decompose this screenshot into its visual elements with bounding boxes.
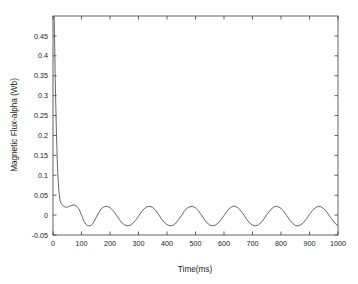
chart-svg: 01002003004005006007008009001000 -0.0500… — [0, 0, 358, 284]
x-tick-label: 800 — [275, 239, 287, 248]
figure-canvas: 01002003004005006007008009001000 -0.0500… — [0, 0, 358, 284]
y-tick-label: 0 — [44, 211, 48, 220]
x-tick-label: 600 — [218, 239, 230, 248]
x-tick-label: 300 — [133, 239, 145, 248]
y-tick-label: 0.25 — [34, 111, 48, 120]
x-tick-label: 1000 — [330, 239, 346, 248]
y-tick-label: 0.3 — [38, 91, 48, 100]
y-tick-label: -0.05 — [32, 231, 48, 240]
y-tick-label: 0.15 — [34, 151, 48, 160]
plot-area-background — [53, 16, 338, 235]
x-tick-label: 100 — [76, 239, 88, 248]
x-tick-label: 700 — [247, 239, 259, 248]
x-tick-label: 500 — [190, 239, 202, 248]
y-tick-label: 0.1 — [38, 171, 48, 180]
x-tick-label: 200 — [104, 239, 116, 248]
y-tick-label: 0.05 — [34, 191, 48, 200]
y-tick-label: 0.45 — [34, 32, 48, 41]
x-tick-label: 0 — [51, 239, 55, 248]
x-tick-label: 400 — [161, 239, 173, 248]
x-tick-label: 900 — [304, 239, 316, 248]
x-axis-label: Time(ms) — [178, 265, 213, 274]
y-tick-label: 0.4 — [38, 51, 48, 60]
y-axis-label: Magnetic Flux-alpha (Wb) — [10, 78, 19, 172]
y-tick-label: 0.2 — [38, 131, 48, 140]
y-tick-label: 0.35 — [34, 71, 48, 80]
